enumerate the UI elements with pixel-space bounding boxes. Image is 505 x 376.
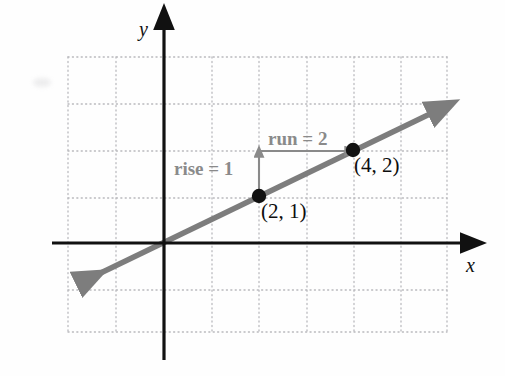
run-label: run = 2 (268, 129, 327, 148)
slope-graph-figure: y x rise = 1 run = 2 (2, 1) (4, 2) (0, 0, 505, 376)
graph-canvas (0, 0, 505, 376)
point-label-4-2: (4, 2) (354, 155, 400, 176)
rise-label: rise = 1 (174, 159, 233, 178)
y-axis-label: y (139, 19, 148, 39)
point-label-2-1: (2, 1) (261, 201, 307, 222)
x-axis-label: x (466, 255, 475, 275)
